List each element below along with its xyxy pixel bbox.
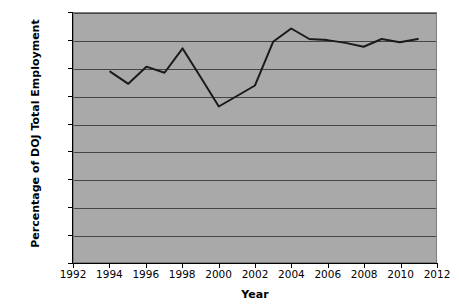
data-series-line xyxy=(74,13,436,262)
y-axis-title: Percentage of DOJ Total Employment xyxy=(29,4,42,264)
x-axis-tick-label: 2012 xyxy=(407,268,459,280)
x-axis-title: Year xyxy=(73,288,437,301)
chart-container: Percentage of DOJ Total Employment 00.05… xyxy=(0,0,459,308)
plot-area xyxy=(73,12,437,263)
